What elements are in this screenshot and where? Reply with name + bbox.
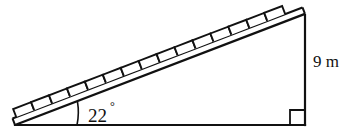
staircase-triangle-figure: 22 ° 9 m: [0, 0, 353, 131]
angle-label-22-degrees: 22: [88, 105, 107, 126]
degree-symbol-icon: °: [110, 99, 115, 113]
diagram-canvas: 22 ° 9 m: [0, 0, 353, 131]
height-label-9-m: 9 m: [313, 52, 339, 71]
